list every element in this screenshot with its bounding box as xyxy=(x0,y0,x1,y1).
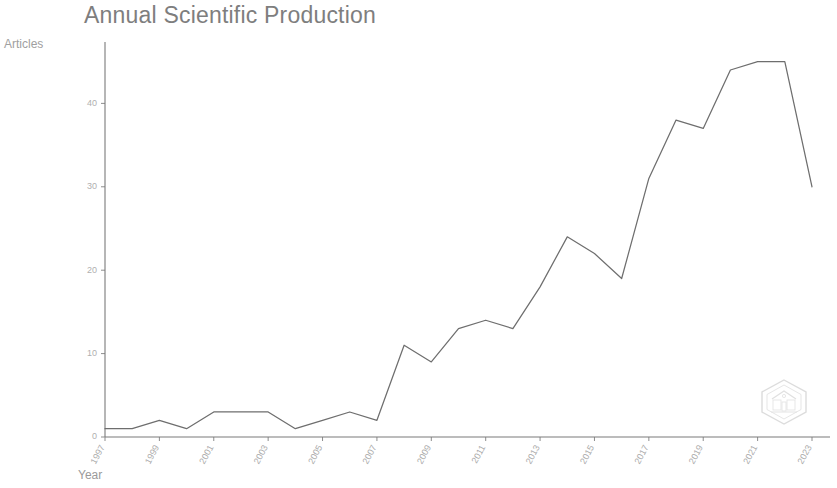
x-tick-label: 2005 xyxy=(306,443,324,465)
articles-series-line xyxy=(105,62,812,429)
x-tick-label: 2019 xyxy=(687,443,705,465)
x-tick-label: 2021 xyxy=(741,443,759,465)
y-tick-label: 10 xyxy=(87,348,97,358)
x-tick-label: 2023 xyxy=(796,443,814,465)
y-tick-label: 20 xyxy=(87,265,97,275)
y-tick-label: 0 xyxy=(92,431,97,441)
x-tick-label: 2011 xyxy=(470,443,488,465)
x-tick-label: 2003 xyxy=(252,443,270,465)
hexagon-emblem-watermark xyxy=(758,378,810,426)
y-tick-label: 40 xyxy=(87,98,97,108)
x-tick-label: 2009 xyxy=(415,443,433,465)
chart-container: Annual Scientific Production Articles Ye… xyxy=(0,0,837,488)
x-tick-label: 2013 xyxy=(524,443,542,465)
y-axis-ticks: 010203040 xyxy=(87,98,105,442)
x-tick-label: 2017 xyxy=(632,443,650,465)
x-axis-ticks: 1997199920012003200520072009201120132015… xyxy=(89,437,814,466)
x-tick-label: 2015 xyxy=(578,443,596,465)
x-tick-label: 2001 xyxy=(197,443,215,465)
x-tick-label: 1999 xyxy=(143,443,161,465)
x-tick-label: 1997 xyxy=(89,443,107,465)
x-tick-label: 2007 xyxy=(360,443,378,465)
y-tick-label: 30 xyxy=(87,181,97,191)
line-chart-plot: 010203040 199719992001200320052007200920… xyxy=(0,0,837,488)
